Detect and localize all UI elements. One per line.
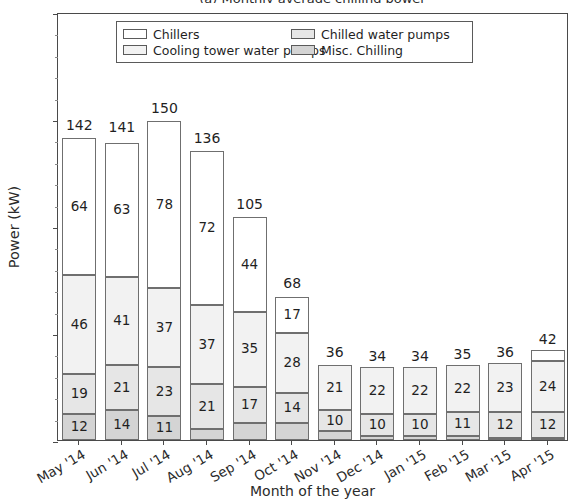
bar-segment[interactable] (531, 350, 565, 361)
bar-group[interactable]: 14214163141 (105, 138, 139, 440)
bar-segment[interactable]: 21 (318, 365, 352, 410)
bar-segment-value: 17 (284, 308, 301, 322)
bar-segment[interactable]: 14 (275, 393, 309, 423)
bar-segment[interactable]: 22 (360, 367, 394, 414)
bar-segment[interactable]: 21 (105, 365, 139, 410)
bar-segment[interactable] (446, 436, 480, 440)
bar-segment[interactable]: 17 (233, 387, 267, 423)
y-tick-minor (55, 207, 58, 208)
bar-segment[interactable] (360, 436, 394, 440)
bar-segment-value: 24 (539, 380, 556, 394)
bar-segment[interactable]: 37 (147, 288, 181, 367)
bar-segment[interactable]: 46 (62, 275, 96, 373)
bar-segment[interactable]: 64 (62, 138, 96, 275)
bar-segment-value: 11 (156, 421, 173, 435)
bar-segment[interactable]: 14 (105, 410, 139, 440)
bar-segment[interactable]: 11 (147, 416, 181, 440)
legend-item-chillers: Chillers (123, 27, 291, 42)
x-tick-mark (547, 441, 548, 445)
bar-segment[interactable]: 17 (275, 297, 309, 333)
legend-item-cooling-tower-water-pumps: Cooling tower water pumps (123, 43, 291, 58)
bar-segment[interactable]: 35 (233, 312, 267, 387)
bar-segment[interactable] (190, 429, 224, 440)
bar-total-label: 141 (93, 119, 151, 135)
bar-segment[interactable]: 10 (403, 414, 437, 435)
bar-segment[interactable]: 37 (190, 305, 224, 384)
bar-segment[interactable]: 23 (147, 367, 181, 416)
y-axis-label: Power (kW) (6, 186, 22, 269)
chart-legend: Chillers Chilled water pumps Cooling tow… (116, 21, 473, 63)
x-tick-mark (291, 441, 292, 445)
bar-segment[interactable]: 21 (190, 384, 224, 429)
bar-segment[interactable]: 28 (275, 333, 309, 393)
bar-segment[interactable] (233, 423, 267, 440)
bar-segment-value: 12 (71, 420, 88, 434)
bar-segment[interactable]: 24 (531, 361, 565, 412)
bar-group[interactable]: 102234 (360, 367, 394, 440)
bar-segment-value: 72 (198, 221, 215, 235)
y-tick-minor (55, 399, 58, 400)
bar-group[interactable]: 14281768 (275, 294, 309, 440)
bar-segment[interactable] (403, 436, 437, 440)
y-tick-minor (55, 356, 58, 357)
bar-segment[interactable]: 72 (190, 151, 224, 305)
plot-area: 050100150200 121946641421421416314111233… (57, 13, 568, 441)
bar-total-label: 136 (178, 130, 236, 146)
bar-total-label: 42 (519, 331, 574, 347)
bar-segment-value: 23 (497, 381, 514, 395)
bar-segment[interactable]: 23 (488, 363, 522, 412)
y-tick-minor (55, 142, 58, 143)
bar-segment-value: 64 (71, 200, 88, 214)
bar-segment[interactable]: 12 (62, 414, 96, 440)
bar-segment-value: 21 (198, 400, 215, 414)
bar-segment[interactable]: 63 (105, 143, 139, 278)
bar-segment[interactable]: 11 (446, 412, 480, 436)
bar-group[interactable]: 122336 (488, 363, 522, 440)
bar-segment[interactable]: 22 (446, 365, 480, 412)
bar-segment-value: 37 (198, 338, 215, 352)
bar-segment[interactable]: 44 (233, 217, 267, 311)
legend-label: Misc. Chilling (321, 43, 403, 58)
bar-segment[interactable] (318, 431, 352, 440)
bar-segment-value: 12 (539, 418, 556, 432)
bar-segment[interactable]: 10 (360, 414, 394, 435)
bar-segment[interactable]: 19 (62, 374, 96, 415)
bar-segment-value: 14 (113, 418, 130, 432)
x-tick-mark (163, 441, 164, 445)
bar-group[interactable]: 112235 (446, 365, 480, 440)
bar-segment-value: 78 (156, 198, 173, 212)
bar-group[interactable]: 102234 (403, 367, 437, 440)
bar-segment-value: 10 (326, 414, 343, 428)
legend-item-misc-chilling: Misc. Chilling (291, 43, 480, 58)
y-tick-minor (55, 378, 58, 379)
y-tick-minor (55, 249, 58, 250)
bar-total-label: 150 (135, 100, 193, 116)
x-axis-label: Month of the year (57, 483, 568, 499)
x-tick-mark (206, 441, 207, 445)
x-tick-mark (462, 441, 463, 445)
bar-group[interactable]: 122442 (531, 350, 565, 440)
bar-segment[interactable]: 12 (488, 412, 522, 438)
bar-group[interactable]: 173544105 (233, 215, 267, 440)
bar-segment[interactable]: 12 (531, 412, 565, 438)
bar-segment-value: 46 (71, 318, 88, 332)
bar-segment[interactable] (275, 423, 309, 440)
bar-segment-value: 37 (156, 321, 173, 335)
bar-segment[interactable]: 78 (147, 121, 181, 288)
bar-segment[interactable]: 10 (318, 410, 352, 431)
bar-segment[interactable]: 41 (105, 277, 139, 365)
bar-total-label: 68 (263, 275, 321, 291)
bar-group[interactable]: 12194664142 (62, 136, 96, 440)
y-tick-mark (53, 335, 58, 336)
bar-group[interactable]: 11233778150 (147, 119, 181, 440)
bar-group[interactable]: 213772136 (190, 149, 224, 440)
x-tick-mark (249, 441, 250, 445)
y-tick-minor (55, 78, 58, 79)
bar-segment[interactable] (531, 438, 565, 440)
y-tick-mark (53, 228, 58, 229)
bar-segment-value: 23 (156, 385, 173, 399)
bar-segment[interactable] (488, 438, 522, 440)
bar-segment[interactable]: 22 (403, 367, 437, 414)
bar-group[interactable]: 102136 (318, 363, 352, 440)
legend-label: Chilled water pumps (321, 27, 450, 42)
